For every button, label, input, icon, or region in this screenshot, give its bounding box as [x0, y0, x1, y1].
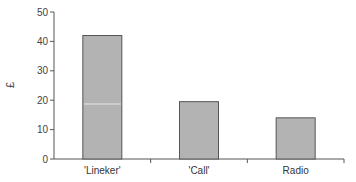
x-category-label: 'Call' — [188, 165, 209, 176]
y-tick-label: 40 — [37, 36, 49, 47]
y-tick-label: 30 — [37, 65, 49, 76]
x-axis: 'Lineker''Call'Radio — [54, 159, 344, 176]
bar-chart: 01020304050 'Lineker''Call'Radio £ — [0, 0, 356, 182]
x-category-label: 'Lineker' — [84, 165, 121, 176]
bar — [180, 102, 219, 159]
y-tick-label: 20 — [37, 95, 49, 106]
y-tick-label: 0 — [42, 154, 48, 165]
bar — [83, 36, 122, 159]
y-tick-label: 10 — [37, 124, 49, 135]
y-axis: 01020304050 — [37, 7, 54, 165]
y-axis-label: £ — [4, 82, 16, 88]
y-tick-label: 50 — [37, 7, 49, 18]
x-category-label: Radio — [283, 165, 310, 176]
bar — [276, 118, 315, 159]
bars — [83, 36, 315, 159]
